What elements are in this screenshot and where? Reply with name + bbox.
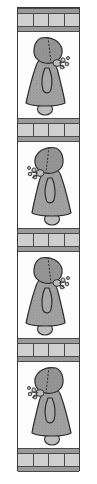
sunbonnet-figure [18, 142, 79, 228]
sashing-cell [18, 344, 34, 356]
sashing-cell [34, 344, 50, 356]
sashing-cells [18, 454, 79, 466]
sashing-cell [49, 124, 65, 136]
sashing-band-5 [18, 448, 79, 472]
sashing-band-1 [18, 8, 79, 32]
sunbonnet-block-4 [18, 362, 79, 448]
sashing-cell [65, 14, 80, 26]
sashing-cells [18, 14, 79, 26]
arm [45, 178, 55, 203]
sunbonnet-figure [18, 362, 79, 448]
sashing-band-4 [18, 338, 79, 362]
quilt-canvas [0, 0, 97, 484]
sashing-cell [49, 344, 65, 356]
sunbonnet-block-3 [18, 252, 79, 338]
sunbonnet-block-1 [18, 32, 79, 118]
quilt-panel [17, 7, 80, 471]
sashing-cell [65, 234, 80, 246]
sashing-cell [65, 454, 80, 466]
sashing-band-3 [18, 228, 79, 252]
sashing-cell [18, 14, 34, 26]
sunbonnet-figure [18, 252, 79, 338]
sashing-cell [49, 454, 65, 466]
sashing-cell [49, 234, 65, 246]
sashing-cell [18, 124, 34, 136]
arm [42, 288, 52, 313]
sashing-band-2 [18, 118, 79, 142]
arm [42, 68, 52, 93]
sunbonnet-sue-icon [18, 32, 79, 118]
sashing-cells [18, 344, 79, 356]
sashing-cell [34, 234, 50, 246]
sunbonnet-sue-icon [18, 142, 79, 228]
sashing-cell [49, 14, 65, 26]
sashing-cells [18, 124, 79, 136]
sashing-cell [34, 454, 50, 466]
sashing-cell [34, 124, 50, 136]
sashing-cell [34, 14, 50, 26]
arm [45, 398, 55, 423]
sashing-cell [65, 124, 80, 136]
sunbonnet-block-2 [18, 142, 79, 228]
sashing-cells [18, 234, 79, 246]
sashing-cell [65, 344, 80, 356]
sunbonnet-figure [18, 32, 79, 118]
sunbonnet-sue-icon [18, 252, 79, 338]
sashing-rail-bottom [18, 466, 79, 472]
sashing-cell [18, 234, 34, 246]
sashing-cell [18, 454, 34, 466]
sunbonnet-sue-icon [18, 362, 79, 448]
